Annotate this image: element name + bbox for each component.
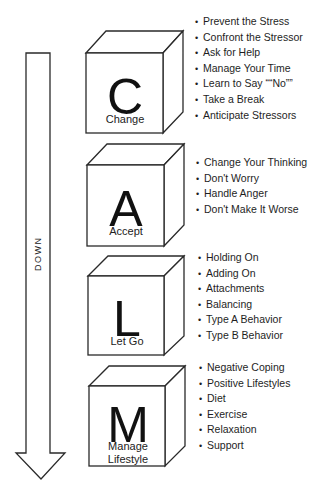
list-item: Ask for Help	[195, 45, 303, 61]
list-item: Adding On	[198, 266, 283, 282]
list-item: Exercise	[199, 407, 290, 423]
list-item: Negative Coping	[199, 360, 290, 376]
list-item: Attachments	[198, 281, 283, 297]
list-item: Relaxation	[199, 422, 290, 438]
cube-label-change: Change	[86, 113, 164, 126]
list-item: Balancing	[198, 297, 283, 313]
manage-lifestyle-list: Negative Coping Positive Lifestyles Diet…	[199, 360, 290, 454]
list-item: Type B Behavior	[198, 328, 283, 344]
list-item: Type A Behavior	[198, 312, 283, 328]
cube-label-accept: Accept	[87, 225, 165, 238]
arrow-label: DOWN	[33, 239, 43, 271]
list-item: Anticipate Stressors	[195, 108, 303, 124]
cube-label-let-go: Let Go	[88, 335, 166, 348]
list-item: Don't Worry	[196, 171, 307, 187]
list-item: Holding On	[198, 250, 283, 266]
list-item: Confront the Stressor	[195, 30, 303, 46]
list-item: Support	[199, 438, 290, 454]
list-item: Take a Break	[195, 92, 303, 108]
cube-label-lifestyle: Lifestyle	[89, 453, 167, 466]
list-item: Manage Your Time	[195, 61, 303, 77]
list-item: Diet	[199, 391, 290, 407]
list-item: Don't Make It Worse	[196, 202, 307, 218]
let-go-list: Holding On Adding On Attachments Balanci…	[198, 250, 283, 344]
list-item: Change Your Thinking	[196, 155, 307, 171]
list-item: Positive Lifestyles	[199, 376, 290, 392]
cube-label-manage: Manage	[89, 440, 167, 453]
change-list: Prevent the Stress Confront the Stressor…	[195, 14, 303, 123]
list-item: Prevent the Stress	[195, 14, 303, 30]
list-item: Handle Anger	[196, 186, 307, 202]
list-item: Learn to Say ““No””	[195, 76, 303, 92]
accept-list: Change Your Thinking Don't Worry Handle …	[196, 155, 307, 217]
